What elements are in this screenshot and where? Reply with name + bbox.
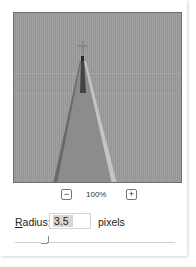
- zoom-level: 100%: [86, 189, 106, 200]
- zoom-in-button[interactable]: +: [126, 189, 137, 200]
- minus-icon: −: [64, 189, 69, 199]
- radius-slider-track[interactable]: [15, 242, 175, 243]
- radius-value: 3.5: [53, 215, 73, 227]
- radius-label: Radius:: [15, 215, 51, 229]
- filter-preview[interactable]: [13, 12, 182, 183]
- radius-input[interactable]: 3.5: [49, 213, 91, 229]
- zoom-out-button[interactable]: −: [61, 189, 72, 200]
- preview-image: [14, 13, 182, 183]
- radius-slider-thumb[interactable]: [41, 236, 49, 244]
- filter-dialog: − 100% + Radius: 3.5 pixels: [0, 0, 187, 256]
- zoom-controls: − 100% +: [0, 189, 196, 201]
- plus-icon: +: [129, 189, 134, 199]
- radius-label-mnemonic: R: [15, 216, 23, 228]
- radius-unit: pixels: [98, 215, 125, 229]
- radius-label-text: adius:: [23, 216, 51, 228]
